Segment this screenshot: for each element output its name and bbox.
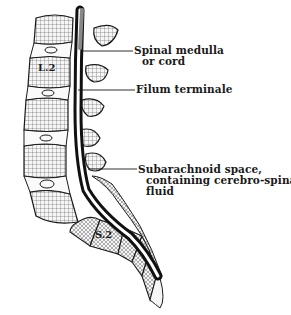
label-filum-terminale: Filum terminale [136,84,233,95]
spinous-processes [80,25,119,171]
vertebra-label-s2: S.2 [95,229,112,240]
label-spinal-cord-2: or cord [142,56,185,67]
vertebra-label-l2: L.2 [38,62,55,73]
label-subarachnoid-3: fluid [146,186,174,197]
